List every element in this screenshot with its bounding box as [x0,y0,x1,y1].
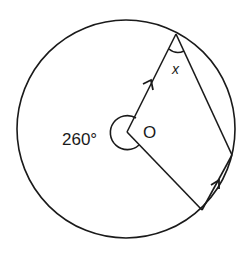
angle-arc-x [169,49,184,53]
reflex-angle-arc [110,116,139,150]
center-label: O [143,123,156,142]
circle-diagram: x O 260° [0,0,249,255]
angle-x-label: x [171,61,180,77]
circle [17,20,235,238]
reflex-angle-label: 260° [62,130,97,149]
chord-bottom-right [202,155,232,210]
radius-to-bottom [127,132,202,210]
